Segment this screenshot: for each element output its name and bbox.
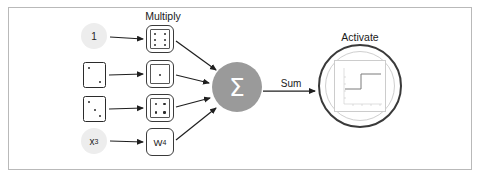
edge-input4-to-mult4 xyxy=(110,141,143,142)
die-pip xyxy=(164,39,166,41)
die-pip xyxy=(88,101,90,103)
edge-mult2-to-sum xyxy=(176,75,209,83)
input-node-1: 1 xyxy=(81,23,107,49)
die-pip xyxy=(159,74,161,76)
multiply-label: Multiply xyxy=(135,11,191,22)
figure-root: Multiply Activate Sum 1 x3 xyxy=(0,0,481,179)
weight-subscript: 4 xyxy=(163,139,167,146)
input-node-die-2 xyxy=(83,62,106,88)
die-pip xyxy=(163,111,165,113)
sum-edge-label: Sum xyxy=(274,79,308,89)
input-node-1-label: 1 xyxy=(91,31,97,42)
activate-node xyxy=(318,44,402,128)
input-node-die-3 xyxy=(83,96,106,122)
sum-node: Σ xyxy=(212,62,262,112)
die-pip xyxy=(163,103,165,105)
multiply-node-die-1 xyxy=(146,60,174,88)
multiply-node-inner-border xyxy=(150,64,170,84)
die-pip xyxy=(155,111,157,113)
edge-input2-to-mult2 xyxy=(109,74,143,75)
weight-label: W xyxy=(154,137,163,148)
die-pip xyxy=(94,109,96,111)
die-pip xyxy=(164,44,166,46)
multiply-node-die-6 xyxy=(146,25,174,53)
die-pip xyxy=(88,67,90,69)
die-pip xyxy=(154,33,156,35)
die-pip xyxy=(154,39,156,41)
die-pip xyxy=(164,33,166,35)
input-node-x3-subscript: 3 xyxy=(95,138,99,145)
edge-mult1-to-sum xyxy=(176,41,216,70)
multiply-node-inner-border xyxy=(150,98,170,118)
multiply-node-weight-w4: W4 xyxy=(146,128,174,156)
die-pip xyxy=(99,115,101,117)
multiply-node-inner-border xyxy=(150,29,170,49)
activate-label: Activate xyxy=(327,32,393,43)
step-function-plot-svg xyxy=(335,61,386,112)
die-pip xyxy=(155,103,157,105)
input-node-x3: x3 xyxy=(81,128,107,154)
step-function-chart xyxy=(334,60,386,112)
edge-input1-to-mult1 xyxy=(110,37,143,39)
edge-mult4-to-sum xyxy=(176,108,216,140)
multiply-node-die-4 xyxy=(146,94,174,122)
die-pip xyxy=(99,81,101,83)
edge-input3-to-mult3 xyxy=(109,108,143,109)
die-pip xyxy=(154,44,156,46)
edge-mult3-to-sum xyxy=(176,98,210,107)
sigma-icon: Σ xyxy=(229,75,245,100)
